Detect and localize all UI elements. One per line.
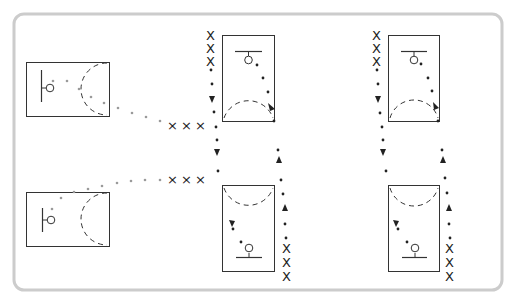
player-x: × [195, 118, 206, 133]
hoop-icon [46, 84, 54, 92]
player-x: X [445, 269, 454, 284]
player-x: X [282, 241, 291, 256]
player-group-left-top: × × × [167, 118, 206, 133]
player-x: X [445, 255, 454, 270]
player-x: × [167, 172, 178, 187]
player-group-right-top: X X X [372, 28, 381, 69]
player-x: X [282, 269, 291, 284]
player-x: X [445, 241, 454, 256]
player-x: × [181, 172, 192, 187]
diagram-frame [14, 14, 502, 290]
player-x: × [167, 118, 178, 133]
player-group-left-bottom: × × × [167, 172, 206, 187]
drill-diagram: × × × × × × X X X [0, 0, 517, 302]
hoop-icon [245, 56, 253, 64]
hoop-icon [47, 216, 55, 224]
player-x: X [206, 54, 215, 69]
hoop-icon [410, 56, 418, 64]
player-group-middle-top: X X X [206, 28, 215, 69]
player-x: × [195, 172, 206, 187]
hoop-icon [245, 244, 253, 252]
player-group-middle-bottom: X X X [282, 241, 291, 284]
player-group-right-bottom: X X X [445, 241, 454, 284]
player-x: X [372, 54, 381, 69]
player-x: X [282, 255, 291, 270]
hoop-icon [411, 244, 419, 252]
player-x: × [181, 118, 192, 133]
